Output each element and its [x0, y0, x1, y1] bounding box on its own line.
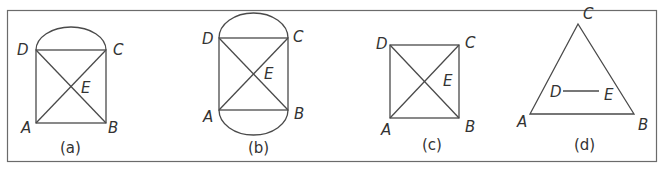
panel-c: D C E A B (c) — [376, 34, 476, 154]
semicircle-bottom — [219, 110, 288, 135]
label-a: A — [202, 108, 213, 126]
label-e: E — [81, 79, 91, 97]
label-a: A — [516, 113, 527, 131]
label-a: A — [380, 121, 391, 139]
caption-c: (c) — [422, 136, 442, 154]
panel-d: C D E A B (d) — [516, 5, 648, 154]
caption-b: (b) — [248, 139, 269, 157]
label-e: E — [443, 72, 453, 90]
figure-canvas: D C E A B (a) D C E A B (b) D C — [0, 0, 662, 169]
panel-b: D C E A B (b) — [202, 13, 304, 157]
label-e: E — [264, 65, 274, 83]
label-b: B — [638, 116, 648, 134]
label-c: C — [465, 34, 476, 52]
label-c: C — [113, 41, 124, 59]
semicircle-top — [36, 27, 106, 50]
triangle-abc — [530, 24, 634, 114]
semicircle-top — [219, 13, 288, 38]
label-c: C — [583, 5, 594, 23]
label-a: A — [20, 119, 31, 137]
label-b: B — [465, 118, 475, 136]
label-d: D — [202, 30, 214, 48]
label-d: D — [550, 83, 562, 101]
label-e: E — [604, 86, 614, 104]
panel-a: D C E A B (a) — [17, 27, 124, 157]
label-b: B — [294, 105, 304, 123]
caption-d: (d) — [574, 136, 595, 154]
label-c: C — [293, 28, 304, 46]
label-d: D — [376, 35, 388, 53]
caption-a: (a) — [60, 139, 81, 157]
label-d: D — [17, 41, 29, 59]
label-b: B — [108, 119, 118, 137]
